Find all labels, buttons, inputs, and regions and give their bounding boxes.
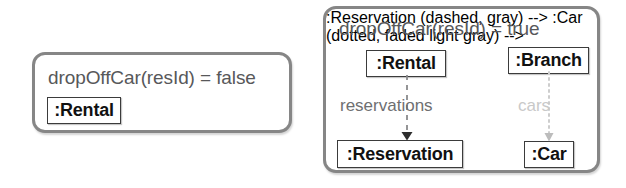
panel-title-true: dropOffCar(resId) = true (339, 19, 540, 38)
object-box-reservation: :Reservation (337, 140, 463, 168)
panel-title-false: dropOffCar(resId) = false (48, 68, 256, 87)
link-label-cars: cars (518, 97, 550, 114)
object-box-rental: :Rental (366, 50, 446, 77)
state-panel-false: dropOffCar(resId) = false :Rental (32, 52, 292, 133)
diagram-canvas: dropOffCar(resId) = false :Rental dropOf… (0, 0, 626, 188)
object-box-car: :Car (524, 141, 574, 168)
object-box-rental: :Rental (47, 97, 121, 124)
link-label-reservations: reservations (340, 97, 433, 114)
state-panel-true: dropOffCar(resId) = true :Rental :Branch… (323, 6, 600, 173)
object-box-branch: :Branch (508, 47, 589, 74)
